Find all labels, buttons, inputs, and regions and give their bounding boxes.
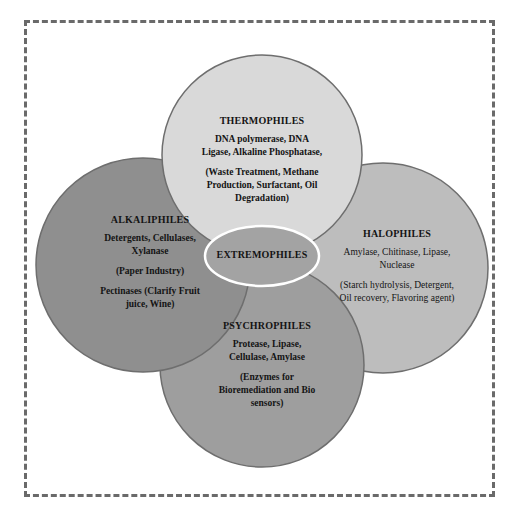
psychrophiles-applications-line-3: sensors) [197,397,337,410]
halophiles-label: HALOPHILES Amylase, Chitinase, Lipase, N… [322,227,472,305]
alkaliphiles-enzymes-line-2: Xylanase [85,245,215,258]
halophiles-applications-line-1: (Starch hydrolysis, Detergent, [322,279,472,292]
psychrophiles-enzymes-line-1: Protease, Lipase, [197,338,337,351]
thermophiles-applications-line-2: Production, Surfactant, Oil [182,179,342,192]
thermophiles-applications-line-1: (Waste Treatment, Methane [182,166,342,179]
psychrophiles-enzymes-line-2: Cellulase, Amylase [197,351,337,364]
halophiles-title: HALOPHILES [322,227,472,240]
halophiles-applications-line-2: Oil recovery, Flavoring agent) [322,292,472,305]
alkaliphiles-enzymes-line-1: Detergents, Cellulases, [85,232,215,245]
halophiles-enzymes-line-2: Nuclease [322,259,472,272]
extremophiles-center-label: EXTREMOPHILES [205,249,319,260]
thermophiles-applications-line-3: Degradation) [182,192,342,205]
thermophiles-enzymes-line-2: Ligase, Alkaline Phosphatase, [182,146,342,159]
psychrophiles-applications-line-1: (Enzymes for [197,371,337,384]
alkaliphiles-extra-line-2: juice, Wine) [85,298,215,311]
psychrophiles-title: PSYCHROPHILES [197,319,337,332]
alkaliphiles-title: ALKALIPHILES [85,213,215,226]
alkaliphiles-extra-line-1: Pectinases (Clarify Fruit [85,285,215,298]
psychrophiles-label: PSYCHROPHILES Protease, Lipase, Cellulas… [197,319,337,410]
alkaliphiles-label: ALKALIPHILES Detergents, Cellulases, Xyl… [85,213,215,311]
halophiles-enzymes-line-1: Amylase, Chitinase, Lipase, [322,246,472,259]
thermophiles-enzymes-line-1: DNA polymerase, DNA [182,133,342,146]
psychrophiles-applications-line-2: Bioremediation and Bio [197,384,337,397]
alkaliphiles-applications-line-1: (Paper Industry) [85,265,215,278]
thermophiles-label: THERMOPHILES DNA polymerase, DNA Ligase,… [182,114,342,205]
thermophiles-title: THERMOPHILES [182,114,342,127]
